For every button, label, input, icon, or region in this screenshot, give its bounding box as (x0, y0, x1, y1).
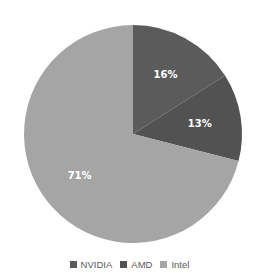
pie-label-intel: 71% (68, 170, 92, 181)
legend-label-nvidia: NVIDIA (81, 259, 113, 270)
legend-item-amd: AMD (120, 259, 152, 270)
legend-swatch-intel (160, 261, 167, 268)
legend-swatch-nvidia (70, 261, 77, 268)
pie-label-nvidia: 16% (154, 69, 178, 80)
legend-swatch-amd (120, 261, 127, 268)
legend-label-intel: Intel (171, 259, 189, 270)
legend-item-intel: Intel (160, 259, 189, 270)
pie-chart: 16%13%71% (0, 0, 259, 278)
pie-label-amd: 13% (188, 118, 212, 129)
legend-item-nvidia: NVIDIA (70, 259, 113, 270)
legend-label-amd: AMD (131, 259, 152, 270)
chart-legend: NVIDIA AMD Intel (0, 259, 259, 270)
